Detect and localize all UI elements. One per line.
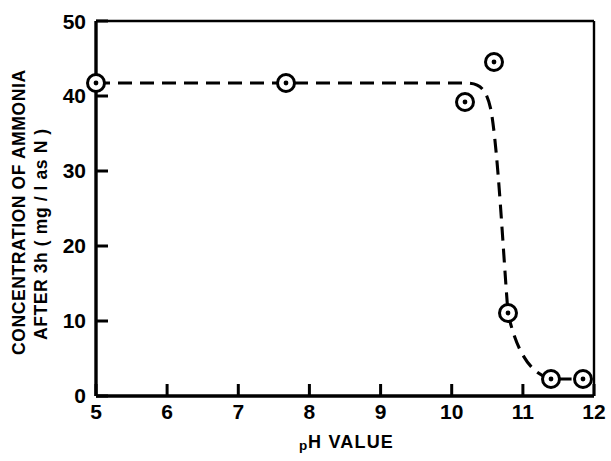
- x-tick-label: 9: [375, 400, 387, 423]
- y-tick-label: 30: [63, 159, 86, 182]
- x-tick-label: 11: [512, 400, 535, 423]
- y-tick-label: 10: [63, 309, 86, 332]
- data-point: [457, 94, 474, 111]
- data-point: [575, 371, 592, 388]
- y-axis-title-line1: CONCENTRATION OF AMMONIA: [9, 69, 29, 355]
- ammonia-ph-chart: 0 10 20 30 40 50 5 6 7 8 9 10 11 12: [0, 0, 611, 461]
- chart-background: [0, 0, 611, 461]
- y-axis-title-line2: AFTER 3h ( mg / l as N ): [31, 128, 51, 340]
- y-tick-label: 40: [63, 84, 86, 107]
- data-point: [500, 305, 517, 322]
- x-tick-label: 6: [161, 400, 173, 423]
- data-point: [486, 54, 503, 71]
- x-tick-label: 12: [582, 400, 605, 423]
- y-tick-label: 0: [74, 384, 86, 407]
- x-tick-label: 7: [232, 400, 244, 423]
- data-point: [543, 371, 560, 388]
- y-tick-label: 20: [63, 234, 86, 257]
- x-axis-title-prefix: p: [299, 438, 307, 453]
- x-tick-label: 8: [304, 400, 316, 423]
- x-tick-label: 10: [440, 400, 463, 423]
- y-tick-label: 50: [63, 10, 86, 33]
- data-point: [88, 75, 105, 92]
- data-point: [278, 75, 295, 92]
- x-tick-label: 5: [90, 400, 102, 423]
- x-axis-title: p H VALUE: [299, 432, 394, 453]
- x-axis-title-rest: H VALUE: [308, 432, 394, 452]
